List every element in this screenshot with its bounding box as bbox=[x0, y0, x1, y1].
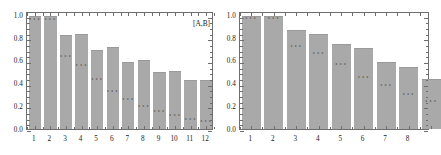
y-axis-minor-tick bbox=[240, 80, 243, 81]
panel-annotation-left: [A,B] bbox=[193, 19, 210, 28]
y-tick-label: 1.0 bbox=[214, 13, 236, 20]
bottom-axis-minor-tick bbox=[296, 127, 297, 129]
bottom-axis-minor-tick bbox=[105, 127, 106, 129]
y-axis-tick bbox=[240, 108, 244, 109]
y-axis-minor-tick-right bbox=[210, 74, 213, 75]
top-axis-tick bbox=[409, 13, 410, 16]
top-axis-tick bbox=[206, 13, 207, 16]
y-axis-minor-tick bbox=[27, 114, 30, 115]
y-axis-minor-tick bbox=[27, 125, 30, 126]
plot-frame-right: ••••••••••••••••••••••••••• bbox=[239, 12, 429, 130]
bar bbox=[242, 16, 261, 129]
y-axis-tick-right bbox=[208, 108, 212, 109]
bottom-axis-minor-tick bbox=[330, 127, 331, 129]
y-axis-tick bbox=[27, 131, 31, 132]
bar-marker-dots: ••• bbox=[90, 77, 104, 82]
y-axis-minor-tick-right bbox=[210, 57, 213, 58]
y-tick-label: 0.8 bbox=[214, 36, 236, 43]
y-axis-minor-tick bbox=[27, 29, 30, 30]
y-axis-tick bbox=[27, 86, 31, 87]
y-axis-tick bbox=[27, 18, 31, 19]
y-axis-minor-tick-right bbox=[426, 29, 429, 30]
bottom-axis-minor-tick bbox=[386, 127, 387, 129]
y-tick-label: 0.0 bbox=[214, 127, 236, 134]
bottom-axis-minor-tick bbox=[285, 127, 286, 129]
bar bbox=[75, 34, 87, 129]
bottom-axis-minor-tick bbox=[409, 127, 410, 129]
bar bbox=[184, 80, 196, 129]
y-axis-minor-tick bbox=[27, 57, 30, 58]
y-axis-minor-tick-right bbox=[210, 46, 213, 47]
y-axis-minor-tick bbox=[27, 120, 30, 121]
top-axis-tick bbox=[386, 13, 387, 16]
bar-cap bbox=[399, 67, 418, 68]
bottom-axis-minor-tick bbox=[307, 127, 308, 129]
bottom-axis-minor-tick bbox=[58, 127, 59, 129]
x-tick-label: 7 bbox=[378, 136, 392, 143]
y-axis-minor-tick-right bbox=[426, 103, 429, 104]
top-axis-tick bbox=[375, 13, 376, 16]
x-tick-label: 3 bbox=[58, 136, 72, 143]
y-axis-tick-right bbox=[208, 40, 212, 41]
y-axis-minor-tick-right bbox=[426, 97, 429, 98]
bottom-axis-minor-tick bbox=[89, 127, 90, 129]
y-axis-minor-tick-right bbox=[426, 57, 429, 58]
y-axis-minor-tick bbox=[240, 29, 243, 30]
y-axis-minor-tick bbox=[240, 97, 243, 98]
top-axis-tick bbox=[89, 13, 90, 16]
top-axis-tick bbox=[121, 13, 122, 16]
y-tick-label: 0.4 bbox=[214, 81, 236, 88]
x-tick-label: 5 bbox=[333, 136, 347, 143]
x-tick-label: 8 bbox=[401, 136, 415, 143]
y-axis-minor-tick bbox=[27, 97, 30, 98]
bar bbox=[264, 16, 283, 129]
y-axis-minor-tick-right bbox=[426, 125, 429, 126]
y-axis-minor-tick bbox=[27, 23, 30, 24]
bottom-axis-minor-tick bbox=[191, 127, 192, 129]
y-axis-tick bbox=[27, 108, 31, 109]
y-axis-minor-tick-right bbox=[210, 103, 213, 104]
bar-marker-dots: ••• bbox=[75, 63, 89, 68]
x-tick-label: 2 bbox=[42, 136, 56, 143]
bar-marker-dots: ••• bbox=[184, 117, 198, 122]
top-axis-tick bbox=[330, 13, 331, 16]
bar-marker-dots: ••• bbox=[312, 51, 326, 56]
bottom-axis-minor-tick bbox=[50, 127, 51, 129]
y-axis-tick-right bbox=[424, 63, 428, 64]
y-axis-minor-tick bbox=[240, 69, 243, 70]
y-axis-tick bbox=[27, 40, 31, 41]
top-axis-tick bbox=[397, 13, 398, 16]
top-axis-tick bbox=[285, 13, 286, 16]
bottom-axis-minor-tick bbox=[82, 127, 83, 129]
top-axis-tick bbox=[240, 13, 241, 16]
chart-panel-left: •••••••••••••••••••••••••••••••••••• 0.0… bbox=[0, 0, 213, 155]
y-axis-minor-tick bbox=[240, 23, 243, 24]
bar-marker-dots: ••• bbox=[334, 62, 348, 67]
y-axis-minor-tick bbox=[240, 125, 243, 126]
y-axis-minor-tick-right bbox=[210, 69, 213, 70]
plot-frame-left: •••••••••••••••••••••••••••••••••••• bbox=[26, 12, 213, 130]
bottom-axis-minor-tick bbox=[397, 127, 398, 129]
y-axis-minor-tick-right bbox=[426, 114, 429, 115]
top-axis-tick bbox=[319, 13, 320, 16]
y-axis-minor-tick-right bbox=[426, 46, 429, 47]
bar-marker-dots: ••• bbox=[357, 75, 371, 80]
y-axis-tick-right bbox=[208, 86, 212, 87]
x-tick-label: 11 bbox=[183, 136, 197, 143]
bar bbox=[29, 16, 41, 129]
top-axis-tick bbox=[274, 13, 275, 16]
top-axis-tick bbox=[27, 13, 28, 16]
y-axis-tick bbox=[240, 18, 244, 19]
bar-cap bbox=[60, 35, 72, 36]
y-axis-tick-right bbox=[208, 63, 212, 64]
bottom-axis-minor-tick bbox=[144, 127, 145, 129]
bar-marker-dots: ••• bbox=[267, 16, 281, 21]
y-axis-minor-tick-right bbox=[426, 80, 429, 81]
bar-cap bbox=[107, 47, 119, 48]
bar bbox=[169, 71, 181, 129]
y-axis-minor-tick bbox=[27, 52, 30, 53]
top-axis-tick bbox=[82, 13, 83, 16]
top-axis-tick bbox=[35, 13, 36, 16]
y-tick-label: 0.6 bbox=[1, 58, 23, 65]
bar-cap bbox=[122, 62, 134, 63]
